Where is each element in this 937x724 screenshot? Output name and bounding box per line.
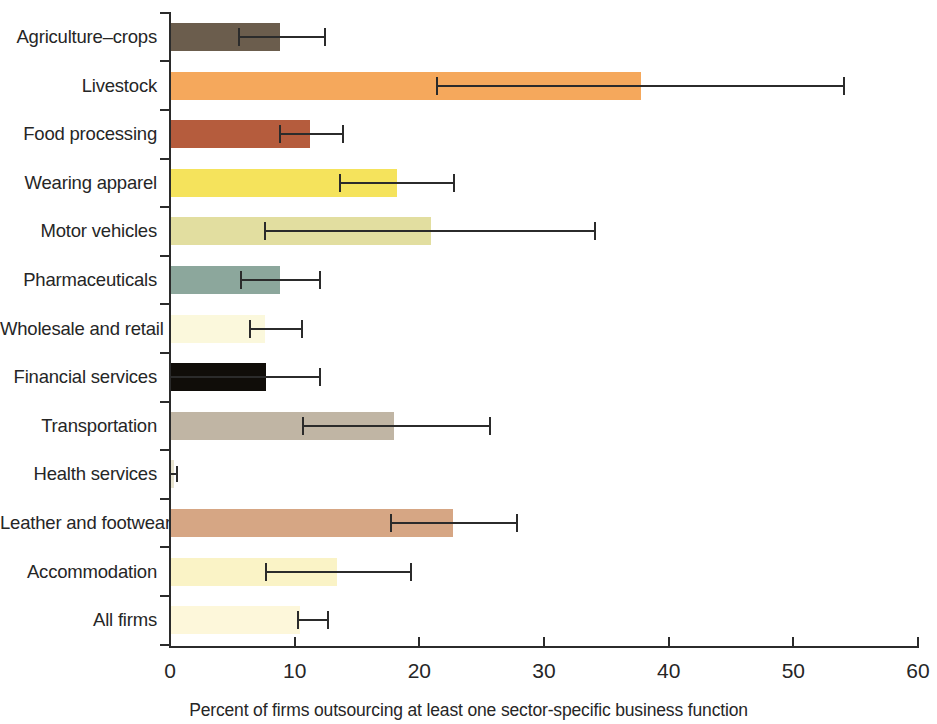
category-label: Wholesale and retail — [0, 319, 157, 338]
x-axis-tick — [543, 637, 545, 646]
error-bar-line — [437, 85, 845, 87]
error-bar-line — [250, 328, 302, 330]
error-bar-line — [280, 133, 344, 135]
y-axis-tick — [160, 206, 169, 208]
x-axis-tick — [294, 637, 296, 646]
category-label: Food processing — [0, 125, 157, 144]
x-axis-tick-label: 30 — [532, 660, 555, 681]
error-bar-line — [298, 619, 328, 621]
y-axis-tick — [160, 401, 169, 403]
x-axis-tick-label: 0 — [164, 660, 176, 681]
error-bar-cap-high — [453, 174, 455, 192]
error-bar-cap-low — [390, 514, 392, 532]
error-bar-line — [265, 230, 595, 232]
x-axis-tick-label: 20 — [408, 660, 431, 681]
error-bar-cap-high — [342, 125, 344, 143]
y-axis-tick — [160, 498, 169, 500]
y-axis-tick — [160, 352, 169, 354]
y-axis-spine — [169, 12, 171, 646]
error-bar-cap-high — [410, 563, 412, 581]
error-bar-line — [391, 522, 517, 524]
error-bar-cap-high — [301, 320, 303, 338]
category-label: Motor vehicles — [0, 222, 157, 241]
category-label: Financial services — [0, 368, 157, 387]
y-axis-tick — [160, 12, 169, 14]
category-label: Wearing apparel — [0, 174, 157, 193]
error-bar-cap-low — [279, 125, 281, 143]
error-bar-cap-low — [249, 320, 251, 338]
y-axis-tick — [160, 109, 169, 111]
x-axis-tick-label: 10 — [283, 660, 306, 681]
x-axis-tick — [668, 637, 670, 646]
x-axis-tick-label: 50 — [782, 660, 805, 681]
error-bar-line — [170, 376, 320, 378]
error-bar-line — [303, 425, 490, 427]
category-label: Livestock — [0, 76, 157, 95]
category-label: Agriculture–crops — [0, 28, 157, 47]
error-bar-line — [340, 182, 455, 184]
y-axis-tick — [160, 449, 169, 451]
y-axis-tick — [160, 255, 169, 257]
bar — [170, 606, 300, 634]
x-axis-tick-label: 40 — [657, 660, 680, 681]
error-bar-line — [239, 36, 325, 38]
y-axis-tick — [160, 595, 169, 597]
category-label: Pharmaceuticals — [0, 271, 157, 290]
x-axis-tick-label: 60 — [906, 660, 929, 681]
error-bar-cap-high — [327, 611, 329, 629]
error-bar-cap-low — [240, 271, 242, 289]
error-bar-cap-low — [264, 222, 266, 240]
error-bar-cap-high — [324, 28, 326, 46]
y-axis-tick — [160, 60, 169, 62]
y-axis-tick — [160, 158, 169, 160]
category-label: Leather and footwear — [0, 514, 157, 533]
category-label: Accommodation — [0, 562, 157, 581]
error-bar-cap-low — [238, 28, 240, 46]
error-bar-cap-low — [339, 174, 341, 192]
x-axis-tick — [917, 637, 919, 646]
x-axis-label: Percent of firms outsourcing at least on… — [0, 702, 937, 720]
x-axis-tick — [792, 637, 794, 646]
error-bar-cap-high — [319, 271, 321, 289]
category-label: All firms — [0, 611, 157, 630]
y-axis-tick — [160, 644, 169, 646]
error-bar-cap-low — [302, 417, 304, 435]
error-bar-cap-high — [489, 417, 491, 435]
error-bar-cap-high — [843, 77, 845, 95]
error-bar-cap-high — [176, 466, 178, 482]
error-bar-line — [241, 279, 320, 281]
bar-chart: Agriculture–cropsLivestockFood processin… — [0, 0, 937, 724]
error-bar-cap-low — [297, 611, 299, 629]
error-bar-cap-high — [516, 514, 518, 532]
error-bar-cap-low — [436, 77, 438, 95]
y-axis-tick — [160, 546, 169, 548]
error-bar-cap-low — [265, 563, 267, 581]
error-bar-line — [266, 571, 411, 573]
error-bar-cap-high — [319, 368, 321, 386]
x-axis-tick — [169, 637, 171, 646]
error-bar-cap-high — [594, 222, 596, 240]
x-axis-spine — [169, 646, 919, 648]
y-axis-tick — [160, 303, 169, 305]
category-label: Health services — [0, 465, 157, 484]
x-axis-tick — [418, 637, 420, 646]
category-label: Transportation — [0, 417, 157, 436]
